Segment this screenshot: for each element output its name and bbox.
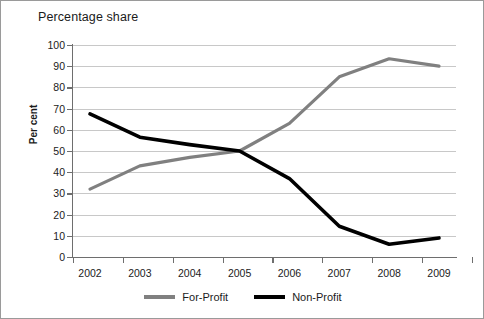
y-axis-tick-mark [67,151,72,152]
y-axis-tick-mark [67,87,72,88]
y-axis-tick-label: 10 [17,230,65,242]
x-axis-tick-mark [322,257,323,263]
plot-area [73,45,456,257]
x-axis-tick-mark [422,257,423,263]
y-axis-tick-mark [67,215,72,216]
y-axis-tick-label: 60 [17,124,65,136]
chart-legend: For-ProfitNon-Profit [1,291,484,303]
y-axis-tick-label: 0 [17,251,65,263]
data-series-layer [73,45,456,257]
x-axis-tick-label: 2004 [178,267,201,279]
y-axis-tick-mark [67,109,72,110]
series-line-for-profit [90,59,439,189]
y-axis-tick-label: 50 [17,145,65,157]
y-axis-tick-label: 70 [17,103,65,115]
x-axis-tick-label: 2009 [427,267,450,279]
y-axis-tick-label: 20 [17,209,65,221]
legend-item-non-profit[interactable]: Non-Profit [254,291,342,303]
x-axis-tick-label: 2006 [278,267,301,279]
y-axis-tick-mark [67,257,72,258]
legend-swatch [254,295,285,299]
legend-item-for-profit[interactable]: For-Profit [144,291,228,303]
y-axis-tick-mark [67,66,72,67]
legend-swatch [144,295,175,298]
x-axis-tick-mark [472,257,473,263]
y-axis-tick-label: 40 [17,166,65,178]
series-line-non-profit [90,114,439,244]
x-axis-tick-label: 2008 [377,267,400,279]
x-axis-tick-label: 2003 [128,267,151,279]
x-axis-tick-label: 2002 [78,267,101,279]
y-axis-tick-label: 80 [17,81,65,93]
y-axis-tick-label: 90 [17,60,65,72]
x-axis-tick-mark [372,257,373,263]
x-axis-tick-mark [272,257,273,263]
legend-label: For-Profit [182,291,228,303]
y-axis-tick-mark [67,130,72,131]
x-axis-tick-mark [73,257,74,263]
y-axis-tick-label: 100 [17,39,65,51]
y-axis-tick-label: 30 [17,187,65,199]
y-axis-tick-labels: 0102030405060708090100 [13,1,65,319]
x-axis-tick-label: 2005 [228,267,251,279]
y-axis-tick-mark [67,45,72,46]
y-axis-tick-mark [67,172,72,173]
y-axis-tick-mark [67,193,72,194]
chart-container: Percentage share Per cent 01020304050607… [0,0,484,319]
x-axis-tick-mark [123,257,124,263]
x-axis-tick-mark [173,257,174,263]
y-axis-tick-mark [67,236,72,237]
x-axis-tick-mark [223,257,224,263]
legend-label: Non-Profit [292,291,342,303]
x-axis-tick-label: 2007 [328,267,351,279]
